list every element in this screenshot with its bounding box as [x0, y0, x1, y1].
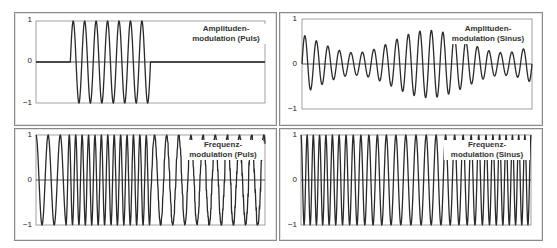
ytick-top: 1 [283, 130, 297, 139]
ytick-zero: 0 [283, 175, 297, 184]
panel-title-line1: Frequenz- [445, 140, 529, 150]
panel-title: Amplituden- modulation (Puls) [185, 24, 267, 44]
panel-title-line1: Frequenz- [184, 140, 262, 150]
ytick-zero: 0 [18, 175, 32, 184]
ytick-zero: 0 [18, 56, 32, 65]
panel-title: Frequenz- modulation (Puls) [183, 140, 263, 160]
panel-title-line2: modulation (Sinus) [446, 34, 530, 44]
panel-title-line2: modulation (Puls) [184, 150, 262, 160]
ytick-bottom: −1 [18, 98, 32, 107]
ytick-zero: 0 [283, 59, 297, 68]
ytick-top: 1 [283, 14, 297, 23]
ytick-bottom: −1 [283, 104, 297, 113]
panel-fm-sine: 1 0 −1 Frequenz- modulation (Sinus) [279, 128, 543, 241]
panel-fm-pulse: 1 0 −1 Frequenz- modulation (Puls) [14, 128, 277, 241]
ytick-bottom: −1 [283, 220, 297, 229]
panel-am-pulse: 1 0 −1 Amplituden- modulation (Puls) [14, 12, 277, 126]
panel-title-line2: modulation (Puls) [186, 34, 266, 44]
panel-am-sine: 1 0 −1 Amplituden- modulation (Sinus) [279, 12, 543, 126]
panel-title: Amplituden- modulation (Sinus) [445, 24, 531, 44]
ytick-bottom: −1 [18, 220, 32, 229]
panel-title-line2: modulation (Sinus) [445, 150, 529, 160]
ytick-top: 1 [18, 15, 32, 24]
ytick-top: 1 [18, 130, 32, 139]
panel-title-line1: Amplituden- [186, 24, 266, 34]
panel-title-line1: Amplituden- [446, 24, 530, 34]
panel-title: Frequenz- modulation (Sinus) [444, 140, 530, 160]
